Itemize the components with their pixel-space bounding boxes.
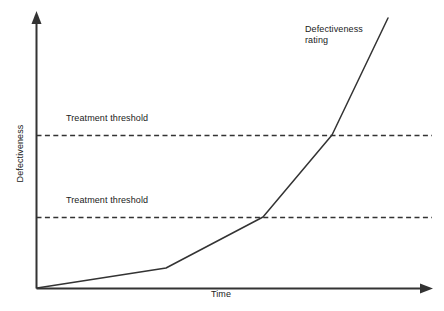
reference-label-threshold-upper: Treatment threshold [66, 113, 148, 124]
y-axis [32, 11, 42, 289]
series-annotation-defectiveness-rating: Defectiveness rating [305, 24, 363, 46]
y-axis-arrow-icon [32, 11, 42, 24]
defectiveness-over-time-chart: Treatment threshold Treatment threshold … [0, 0, 444, 311]
x-axis [37, 284, 434, 294]
x-axis-label: Time [211, 289, 231, 300]
chart-canvas [0, 0, 444, 311]
series-line-defectiveness-rating [37, 18, 388, 288]
reference-label-threshold-lower: Treatment threshold [66, 195, 148, 206]
x-axis-arrow-icon [420, 284, 433, 294]
y-axis-label: Defectiveness [15, 109, 26, 199]
